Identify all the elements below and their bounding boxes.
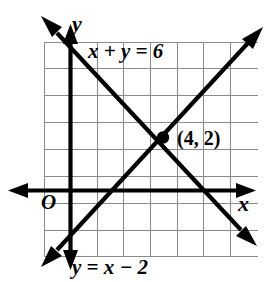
origin-label: O bbox=[41, 190, 56, 214]
coordinate-plane: x + y = 6 (4, 2) y = x − 2 y x O bbox=[0, 0, 270, 282]
line-a-equation-label: x + y = 6 bbox=[87, 39, 164, 63]
intersection-point-marker bbox=[157, 131, 169, 143]
intersection-point-label: (4, 2) bbox=[177, 127, 220, 150]
x-axis-label: x bbox=[237, 191, 249, 216]
x-axis-arrow-left bbox=[8, 183, 28, 198]
graph-figure: x + y = 6 (4, 2) y = x − 2 y x O bbox=[0, 0, 270, 282]
line-b-equation-label: y = x − 2 bbox=[69, 255, 149, 279]
